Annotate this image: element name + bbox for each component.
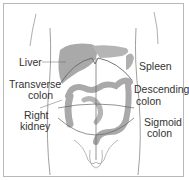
label-sigmoid-colon-2: colon — [147, 128, 172, 139]
spleen-shape — [126, 53, 134, 70]
body-outline-right-arm — [154, 12, 158, 44]
body-outline-left-arm — [30, 14, 36, 46]
label-liver: Liver — [19, 57, 42, 68]
stomach-shape — [92, 45, 128, 58]
label-right-kidney-2: kidney — [20, 121, 50, 132]
kidney-leader — [40, 100, 62, 108]
intestine-shape — [84, 99, 101, 122]
label-transverse-colon-2: colon — [28, 90, 53, 101]
label-descending-colon-2: colon — [136, 96, 161, 107]
descending-colon-shape — [126, 84, 129, 120]
label-descending-colon-1: Descending — [134, 84, 189, 95]
body-outline-left — [47, 28, 50, 175]
label-spleen: Spleen — [139, 61, 172, 72]
sigmoid-colon-shape — [96, 120, 126, 142]
transverse-colon-shape — [68, 81, 130, 96]
ascending-colon-shape — [68, 96, 70, 124]
